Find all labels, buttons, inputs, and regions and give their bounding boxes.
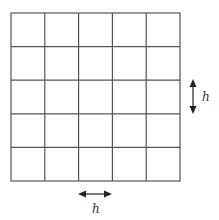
horizontal-spacing-label: h bbox=[92, 202, 100, 216]
vertical-spacing-arrow-icon bbox=[190, 79, 197, 114]
vertical-spacing-label: h bbox=[202, 90, 210, 104]
horizontal-spacing-arrow-icon bbox=[78, 191, 112, 198]
grid-diagram: h h bbox=[0, 0, 219, 220]
grid-border bbox=[11, 13, 180, 181]
grid bbox=[11, 13, 180, 181]
